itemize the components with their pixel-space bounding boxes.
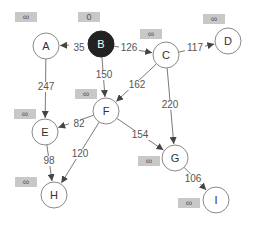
node-label: I (214, 194, 217, 206)
node-label: F (103, 105, 110, 117)
edge-weight-label: 82 (73, 118, 85, 129)
distance-value: ∞ (186, 198, 192, 208)
distance-value: ∞ (146, 156, 152, 166)
graph-canvas: 351261171501622472208215498120106 ∞A0B∞C… (0, 0, 255, 227)
node-E[interactable]: ∞E (14, 109, 58, 145)
distance-value: ∞ (83, 89, 89, 99)
node-label: A (42, 40, 50, 52)
edge-weight-label: 162 (129, 79, 146, 90)
node-H[interactable]: ∞H (15, 177, 67, 208)
distance-value: ∞ (148, 29, 154, 39)
edge-weight-label: 106 (185, 173, 202, 184)
edge-weight-label: 120 (72, 148, 89, 159)
node-label: E (41, 126, 48, 138)
node-G[interactable]: ∞G (138, 145, 188, 171)
node-label: C (162, 49, 170, 61)
edge-weight-label: 150 (96, 69, 113, 80)
edge-weight-label: 247 (38, 81, 55, 92)
distance-value: ∞ (211, 14, 217, 24)
node-D[interactable]: ∞D (203, 14, 241, 54)
distance-value: 0 (86, 12, 91, 22)
edge-weight-label: 126 (121, 42, 138, 53)
edge-weight-label: 35 (73, 42, 85, 53)
node-C[interactable]: ∞C (140, 29, 179, 68)
node-label: H (50, 189, 58, 201)
node-label: G (171, 152, 180, 164)
edge-weight-label: 98 (43, 155, 55, 166)
distance-value: ∞ (23, 177, 29, 187)
edge-weight-label: 117 (187, 42, 203, 53)
node-label: D (224, 35, 232, 47)
node-A[interactable]: ∞A (15, 12, 59, 59)
edge-weight-label: 154 (132, 129, 149, 140)
node-label: B (97, 38, 104, 50)
distance-value: ∞ (23, 12, 29, 22)
node-I[interactable]: ∞I (178, 187, 229, 213)
edge-weight-label: 220 (162, 99, 179, 110)
distance-value: ∞ (22, 109, 28, 119)
